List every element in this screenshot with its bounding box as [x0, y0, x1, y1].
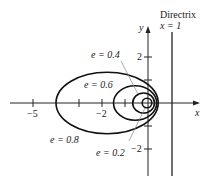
x-axis-arrow-icon: [193, 101, 200, 106]
directrix-title: Directrix: [160, 9, 196, 20]
directrix-equation: x = 1: [159, 20, 181, 31]
y-tick-label-minus2: −2: [131, 143, 142, 154]
curve-label-e-0.4: e = 0.4: [91, 49, 120, 60]
y-axis-arrow-icon: [146, 26, 151, 33]
conic-diagram: y x −5 −2 2 −2 Directrix x = 1 e = 0.4 e…: [0, 0, 207, 183]
y-tick-label-2: 2: [137, 51, 142, 62]
x-axis-label: x: [194, 107, 200, 118]
x-tick-label-minus5: −5: [27, 108, 38, 119]
curve-label-e-0.6: e = 0.6: [84, 79, 113, 90]
curve-label-e-0.8: e = 0.8: [50, 134, 79, 145]
x-tick-label-minus2: −2: [96, 108, 107, 119]
curve-label-e-0.2: e = 0.2: [96, 147, 125, 158]
y-axis-label: y: [138, 22, 144, 33]
